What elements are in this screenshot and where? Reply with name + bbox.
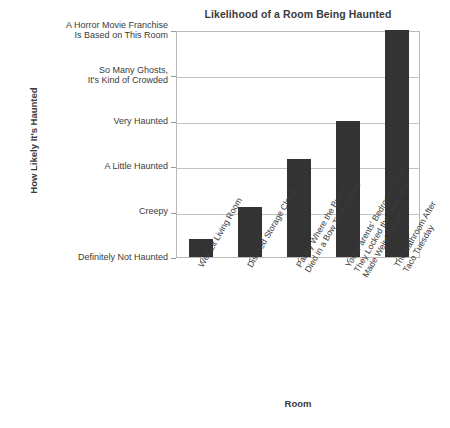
chart-title: Likelihood of a Room Being Haunted [176, 8, 420, 20]
bar-chart: Likelihood of a Room Being Haunted How L… [0, 0, 450, 428]
y-tick-label: So Many Ghosts, It's Kind of Crowded [0, 65, 177, 86]
y-tick-label: Creepy [0, 206, 177, 217]
y-tick-label: Definitely Not Haunted [0, 252, 177, 263]
gridline [177, 123, 419, 124]
gridline [177, 77, 419, 78]
y-tick-label: Very Haunted [0, 116, 177, 127]
y-tick-label: A Little Haunted [0, 161, 177, 172]
y-tick-label: A Horror Movie Franchise Is Based on Thi… [0, 20, 177, 41]
x-axis-title: Room [176, 398, 420, 409]
